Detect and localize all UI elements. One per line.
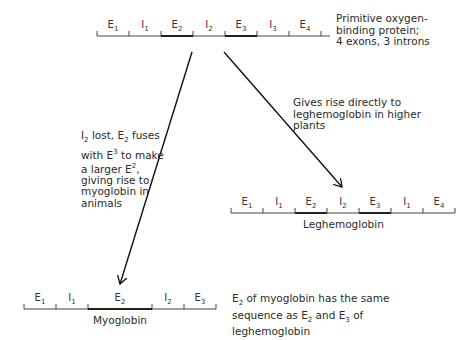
primitive-gene-caption: Primitive oxygen- binding protein; 4 exo… [336, 13, 430, 48]
leghemoglobin-path-caption: Gives rise directly to leghemoglobin in … [293, 97, 421, 132]
myoglobin-path-caption: I2 lost, E2 fuses with E3 to make a larg… [81, 130, 164, 209]
leghemoglobin-label: Leghemoglobin [303, 218, 383, 230]
diagram-lines [0, 0, 474, 340]
myoglobin-label: Myoglobin [80, 314, 160, 326]
myoglobin-caption: E2 of myoglobin has the same sequence as… [232, 293, 389, 338]
